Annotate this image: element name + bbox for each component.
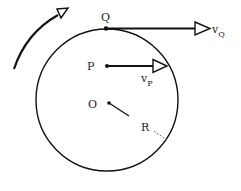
vp-arrowhead-icon <box>153 60 167 73</box>
disk-circle <box>36 29 178 171</box>
rotation-arrow <box>14 15 58 69</box>
diagram-canvas: Q vQ P vP O R <box>0 0 241 191</box>
vq-label-subscript: Q <box>218 30 225 39</box>
vp-label: vP <box>140 72 153 88</box>
center-o-label: O <box>88 98 97 111</box>
point-p-dot <box>105 64 109 68</box>
radius-label: R <box>141 121 150 134</box>
rotation-arrowhead-icon <box>57 8 68 18</box>
rotating-disk-diagram: Q vQ P vP O R <box>0 0 241 191</box>
point-q-dot <box>104 26 108 30</box>
vp-label-subscript: P <box>147 79 153 88</box>
point-q-label: Q <box>101 11 110 24</box>
radius-dashed-line <box>154 131 167 140</box>
radius-line <box>109 103 129 116</box>
point-p-label: P <box>87 60 95 73</box>
vq-label: vQ <box>211 23 225 39</box>
vq-arrowhead-icon <box>195 22 210 35</box>
